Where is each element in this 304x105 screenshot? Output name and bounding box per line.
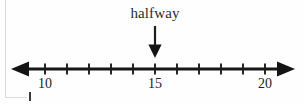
tick-label-10: 10 — [25, 76, 65, 92]
halfway-label-text: halfway — [130, 5, 179, 21]
scan-artifact-mark — [29, 92, 31, 101]
down-arrow-icon — [143, 25, 167, 59]
number-line-figure: halfway 10 15 20 — [0, 0, 304, 105]
axis-arrow-right — [277, 62, 295, 77]
scan-edge-bottom — [5, 97, 27, 98]
halfway-label: halfway — [0, 5, 304, 22]
tick-label-15: 15 — [135, 76, 175, 92]
tick-label-20: 20 — [245, 76, 285, 92]
axis-arrow-left — [11, 62, 29, 77]
